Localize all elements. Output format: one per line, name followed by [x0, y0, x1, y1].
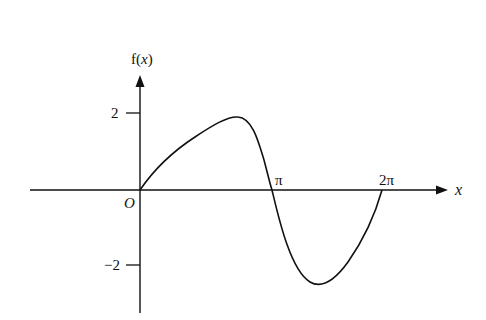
x-axis-label: x — [454, 181, 462, 198]
origin-label: O — [124, 195, 135, 211]
y-axis-label: f(x) — [131, 51, 153, 68]
function-graph: f(x) x O π 2π 2 −2 — [0, 0, 486, 320]
x-axis-arrow-icon — [436, 186, 448, 195]
x-tick-pi-label: π — [275, 172, 283, 188]
y-axis-arrow-icon — [136, 75, 145, 87]
y-tick-2-label: 2 — [111, 105, 119, 121]
function-curve — [140, 117, 382, 284]
y-tick-neg2-label: −2 — [104, 257, 120, 273]
x-tick-2pi-label: 2π — [379, 172, 395, 188]
